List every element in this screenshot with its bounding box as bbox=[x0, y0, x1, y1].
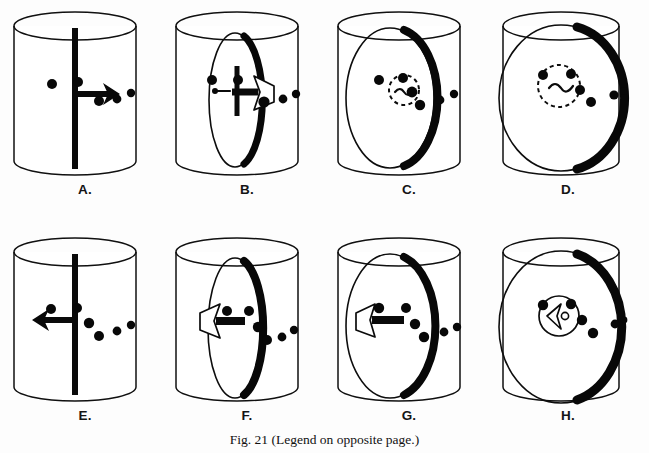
panel-h-drawing bbox=[487, 232, 649, 412]
panel-e: E. bbox=[4, 232, 166, 437]
cylinder-c bbox=[338, 12, 460, 175]
panel-d-label: D. bbox=[487, 182, 649, 197]
panel-b-drawing bbox=[166, 6, 328, 186]
panel-d: D. bbox=[487, 6, 649, 211]
panel-f-label: F. bbox=[166, 408, 328, 423]
panel-a-drawing bbox=[4, 6, 166, 186]
panel-e-label: E. bbox=[4, 408, 166, 423]
caption-legend-note: (Legend on opposite page.) bbox=[271, 432, 419, 447]
panel-a-label: A. bbox=[4, 182, 166, 197]
panel-a: A. bbox=[4, 6, 166, 211]
panel-b-label: B. bbox=[166, 182, 328, 197]
panel-g-drawing bbox=[328, 232, 490, 412]
panel-d-drawing bbox=[487, 6, 649, 186]
panel-c-label: C. bbox=[328, 182, 490, 197]
panel-h-label: H. bbox=[487, 408, 649, 423]
panel-h: H. bbox=[487, 232, 649, 437]
panel-g: G. bbox=[328, 232, 490, 437]
panel-c: C. bbox=[328, 6, 490, 211]
panel-b: B. bbox=[166, 6, 328, 211]
panel-c-drawing bbox=[328, 6, 490, 186]
panel-f: F. bbox=[166, 232, 328, 437]
caption-figure-number: 21 bbox=[255, 432, 269, 447]
panel-f-drawing bbox=[166, 232, 328, 412]
figure-container: A. bbox=[0, 0, 649, 453]
figure-caption: Fig. 21 (Legend on opposite page.) bbox=[0, 432, 649, 448]
panel-e-drawing bbox=[4, 232, 166, 412]
panel-g-label: G. bbox=[328, 408, 490, 423]
caption-fig-label: Fig. bbox=[230, 432, 251, 447]
